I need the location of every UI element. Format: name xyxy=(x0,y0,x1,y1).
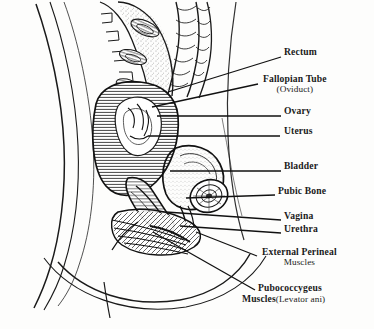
label-bladder-text: Bladder xyxy=(284,160,318,171)
anterior-abdominal-contour xyxy=(222,2,244,240)
label-fallopian-tube-text: Fallopian Tube xyxy=(263,73,327,84)
label-levator-ani-sub: (Levator ani) xyxy=(276,294,326,304)
label-vagina: Vagina xyxy=(284,210,313,221)
perineum-outline xyxy=(44,254,266,318)
label-fallopian-tube: Fallopian Tube (Oviduct) xyxy=(263,73,327,95)
label-rectum-text: Rectum xyxy=(284,46,317,57)
label-pubic-bone-text: Pubic Bone xyxy=(278,185,326,196)
label-external-perineal-muscles-sub: Muscles xyxy=(262,257,337,268)
label-fallopian-tube-sub: (Oviduct) xyxy=(263,84,327,95)
leader-pubococcygeus-muscles xyxy=(153,232,255,290)
label-uterus-text: Uterus xyxy=(284,125,313,136)
label-urethra-text: Urethra xyxy=(284,223,318,234)
label-rectum: Rectum xyxy=(284,46,317,57)
label-ovary: Ovary xyxy=(284,105,311,116)
leader-external-perineal-muscles xyxy=(196,232,257,256)
label-vagina-text: Vagina xyxy=(284,210,313,221)
label-pubococcygeus-muscles: Pubococcygeus Muscles(Levator ani) xyxy=(258,282,325,305)
label-pubococcygeus-muscles-text: Pubococcygeus xyxy=(258,282,322,293)
abdominal-wall-outline xyxy=(34,2,94,310)
label-urethra: Urethra xyxy=(284,223,318,234)
label-pubic-bone: Pubic Bone xyxy=(278,185,326,196)
label-bladder: Bladder xyxy=(284,160,318,171)
label-external-perineal-muscles: External Perineal Muscles xyxy=(262,246,337,268)
label-external-perineal-muscles-text: External Perineal xyxy=(262,246,337,257)
label-ovary-text: Ovary xyxy=(284,105,311,116)
label-pubococcygeus-muscles-sub: Muscles xyxy=(242,293,276,304)
anatomical-figure-page: Rectum Fallopian Tube (Oviduct) Ovary Ut… xyxy=(0,0,374,329)
label-pubococcygeus-muscles-line2: Muscles(Levator ani) xyxy=(242,293,325,305)
label-uterus: Uterus xyxy=(284,125,313,136)
sigmoid-colon-coils xyxy=(168,2,211,98)
